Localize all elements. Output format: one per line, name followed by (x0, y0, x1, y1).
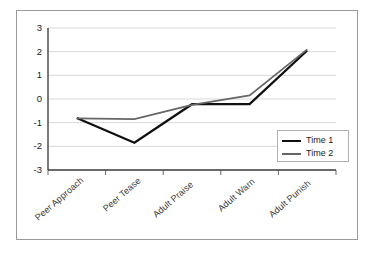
y-tick-label: -2 (24, 141, 42, 151)
legend-label-series-1: Time 1 (306, 136, 333, 145)
y-tick-label: 1 (24, 70, 42, 80)
series-lines (77, 49, 307, 142)
chart-canvas (0, 0, 376, 253)
chart-legend: Time 1 Time 2 (277, 130, 349, 162)
y-tick-label: -3 (24, 165, 42, 175)
gridlines (48, 28, 336, 146)
legend-swatch-series-1 (282, 140, 301, 142)
y-tick-label: 3 (24, 23, 42, 33)
x-axis-ticks (48, 170, 336, 175)
legend-swatch-series-2 (282, 153, 301, 155)
legend-label-series-2: Time 2 (306, 149, 333, 158)
y-tick-label: 0 (24, 94, 42, 104)
legend-item-series-2: Time 2 (282, 147, 344, 160)
y-tick-label: -1 (24, 118, 42, 128)
legend-item-series-1: Time 1 (282, 134, 344, 147)
y-tick-label: 2 (24, 47, 42, 57)
